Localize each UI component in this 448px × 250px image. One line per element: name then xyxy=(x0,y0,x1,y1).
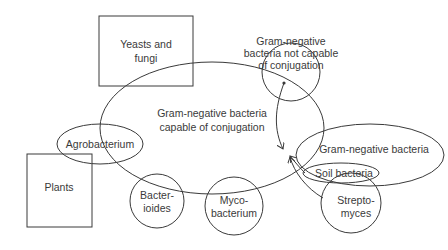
yeasts-label-line1: Yeasts and xyxy=(120,38,172,50)
gram-negative-label: Gram-negative bacteria xyxy=(319,143,429,155)
bacteroides-label-line2: ioides xyxy=(143,202,170,214)
agrobacterium-label: Agrobacterium xyxy=(66,138,135,150)
conjugation-diagram: Yeasts and fungi Plants Gram-negative ba… xyxy=(0,0,448,250)
not-capable-label-line1: Gram-negative xyxy=(256,35,326,47)
bacteroides-node: Bacter- ioides xyxy=(130,174,184,228)
streptomyces-node: Strepto- myces xyxy=(321,173,381,233)
not-capable-label-line2: bacteria not capable xyxy=(244,47,339,59)
not-capable-label-line3: of conjugation xyxy=(258,59,324,71)
capable-label-line1: Gram-negative bacteria xyxy=(157,107,267,119)
soil-bacteria-node: Soil bacteria xyxy=(303,163,379,183)
capable-label-line2: capable of conjugation xyxy=(159,121,264,133)
yeasts-label-line2: fungi xyxy=(135,52,158,64)
plants-label: Plants xyxy=(44,181,73,193)
yeasts-fungi-node: Yeasts and fungi xyxy=(99,16,193,86)
streptomyces-label-line2: myces xyxy=(341,207,371,219)
mycobacterium-label-line2: bacterium xyxy=(211,207,257,219)
bacteroides-label-line1: Bacter- xyxy=(140,189,174,201)
mycobacterium-node: Myco- bacterium xyxy=(205,177,263,235)
capable-of-conjugation-node: Gram-negative bacteria capable of conjug… xyxy=(100,62,324,194)
streptomyces-label-line1: Strepto- xyxy=(337,194,375,206)
not-capable-node: Gram-negative bacteria not capable of co… xyxy=(244,35,339,101)
mycobacterium-label-line1: Myco- xyxy=(220,194,249,206)
soil-bacteria-label: Soil bacteria xyxy=(315,167,373,179)
plants-node: Plants xyxy=(27,154,92,227)
arrow-not-capable-to-gram-negative xyxy=(276,83,284,149)
